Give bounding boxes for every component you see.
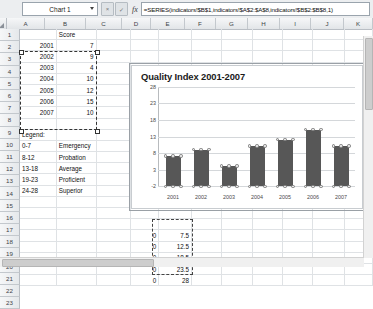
cell-C4[interactable] bbox=[97, 63, 132, 74]
cell-H18[interactable] bbox=[253, 219, 284, 230]
bar-selection-handle[interactable] bbox=[347, 144, 350, 147]
cell-B10[interactable] bbox=[57, 130, 97, 141]
bar-selection-handle[interactable] bbox=[319, 185, 322, 188]
horizontal-scrollbar-thumb[interactable] bbox=[2, 259, 154, 267]
cell-H2[interactable] bbox=[253, 40, 284, 51]
cell-C2[interactable] bbox=[97, 40, 132, 51]
cell-G19[interactable] bbox=[222, 230, 253, 241]
cell-C16[interactable] bbox=[97, 197, 132, 208]
cell-B3[interactable]: 9 bbox=[57, 51, 97, 62]
bar-selection-handle[interactable] bbox=[235, 185, 238, 188]
column-header-C[interactable]: C bbox=[86, 18, 122, 29]
cell-F2[interactable] bbox=[192, 40, 222, 51]
row-header-9[interactable]: 9 bbox=[0, 127, 20, 139]
cell-A3[interactable]: 2002 bbox=[20, 51, 57, 62]
cell-B17[interactable] bbox=[57, 208, 97, 219]
cell-A19[interactable] bbox=[20, 230, 57, 241]
cell-C12[interactable] bbox=[97, 152, 132, 163]
bar-selection-handle[interactable] bbox=[276, 185, 279, 188]
bar-selection-handle[interactable] bbox=[255, 144, 258, 147]
bar-2003[interactable] bbox=[222, 166, 237, 186]
cell-H1[interactable] bbox=[253, 29, 284, 40]
cell-B1[interactable]: Score bbox=[57, 29, 97, 40]
cell-H20[interactable] bbox=[253, 242, 284, 253]
insert-function-icon[interactable]: fx bbox=[132, 5, 138, 14]
cell-G1[interactable] bbox=[222, 29, 253, 40]
cell-B4[interactable]: 4 bbox=[57, 63, 97, 74]
cell-J17[interactable] bbox=[313, 208, 345, 219]
bar-selection-handle[interactable] bbox=[179, 154, 182, 157]
cell-B18[interactable] bbox=[57, 219, 97, 230]
cell-F3[interactable] bbox=[192, 51, 222, 62]
cell-J3[interactable] bbox=[313, 51, 345, 62]
cell-B14[interactable]: Proficient bbox=[57, 174, 97, 185]
column-header-J[interactable]: J bbox=[311, 18, 344, 29]
column-header-D[interactable]: D bbox=[122, 18, 151, 29]
cell-A2[interactable]: 2001 bbox=[20, 40, 57, 51]
cell-B7[interactable]: 15 bbox=[57, 96, 97, 107]
cell-B19[interactable] bbox=[57, 230, 97, 241]
bar-selection-handle[interactable] bbox=[311, 185, 314, 188]
cell-A8[interactable]: 2007 bbox=[20, 107, 57, 118]
bar-2001[interactable] bbox=[166, 156, 181, 186]
cell-J23[interactable] bbox=[313, 275, 345, 286]
cell-C13[interactable] bbox=[97, 163, 132, 174]
cell-F19[interactable] bbox=[192, 230, 222, 241]
cell-G18[interactable] bbox=[222, 219, 253, 230]
bar-selection-handle[interactable] bbox=[207, 185, 210, 188]
cell-A12[interactable]: 8-12 bbox=[20, 152, 57, 163]
bar-selection-handle[interactable] bbox=[263, 185, 266, 188]
cell-F1[interactable] bbox=[192, 29, 222, 40]
cell-H17[interactable] bbox=[253, 208, 284, 219]
cell-B2[interactable]: 7 bbox=[57, 40, 97, 51]
column-header-H[interactable]: H bbox=[248, 18, 280, 29]
bar-2002[interactable] bbox=[194, 150, 209, 186]
row-header-2[interactable]: 2 bbox=[0, 41, 20, 53]
cell-D20[interactable]: 0 bbox=[131, 242, 159, 253]
bar-selection-handle[interactable] bbox=[248, 185, 251, 188]
column-header-B[interactable]: B bbox=[45, 18, 86, 29]
cell-C3[interactable] bbox=[97, 51, 132, 62]
cell-D23[interactable]: 0 bbox=[131, 275, 159, 286]
bar-selection-handle[interactable] bbox=[220, 164, 223, 167]
horizontal-scrollbar[interactable] bbox=[0, 257, 364, 267]
row-header-22[interactable]: 22 bbox=[0, 285, 20, 297]
row-header-10[interactable]: 10 bbox=[0, 139, 20, 151]
row-header-21[interactable]: 21 bbox=[0, 273, 20, 285]
bar-selection-handle[interactable] bbox=[291, 185, 294, 188]
cell-A11[interactable]: 0-7 bbox=[20, 141, 57, 152]
bar-selection-handle[interactable] bbox=[164, 185, 167, 188]
row-header-1[interactable]: 1 bbox=[0, 29, 20, 41]
cell-C23[interactable] bbox=[97, 275, 132, 286]
cell-A1[interactable] bbox=[20, 29, 57, 40]
cell-C15[interactable] bbox=[97, 186, 132, 197]
cell-C7[interactable] bbox=[97, 96, 132, 107]
bar-selection-handle[interactable] bbox=[207, 148, 210, 151]
cell-E23[interactable]: 28 bbox=[159, 275, 192, 286]
cell-B6[interactable]: 12 bbox=[57, 85, 97, 96]
cancel-formula-button[interactable]: × bbox=[101, 2, 114, 16]
select-all-corner[interactable] bbox=[0, 18, 7, 29]
cell-J19[interactable] bbox=[313, 230, 345, 241]
bar-selection-handle[interactable] bbox=[347, 185, 350, 188]
cell-C8[interactable] bbox=[97, 107, 132, 118]
name-box[interactable]: Chart 1 bbox=[22, 2, 98, 16]
row-header-4[interactable]: 4 bbox=[0, 66, 20, 78]
cell-A16[interactable] bbox=[20, 197, 57, 208]
bar-selection-handle[interactable] bbox=[192, 185, 195, 188]
cell-A23[interactable] bbox=[20, 275, 57, 286]
bar-2004[interactable] bbox=[250, 146, 265, 186]
bar-2005[interactable] bbox=[278, 140, 293, 186]
cell-A9[interactable] bbox=[20, 119, 57, 130]
cell-G23[interactable] bbox=[222, 275, 253, 286]
cell-B16[interactable] bbox=[57, 197, 97, 208]
cell-B23[interactable] bbox=[57, 275, 97, 286]
cell-F17[interactable] bbox=[192, 208, 222, 219]
bar-selection-handle[interactable] bbox=[192, 148, 195, 151]
cell-A10[interactable]: Legend: bbox=[20, 130, 57, 141]
bar-selection-handle[interactable] bbox=[199, 148, 202, 151]
bar-selection-handle[interactable] bbox=[339, 185, 342, 188]
cell-G20[interactable] bbox=[222, 242, 253, 253]
cell-I3[interactable] bbox=[283, 51, 313, 62]
cell-C10[interactable] bbox=[97, 130, 132, 141]
